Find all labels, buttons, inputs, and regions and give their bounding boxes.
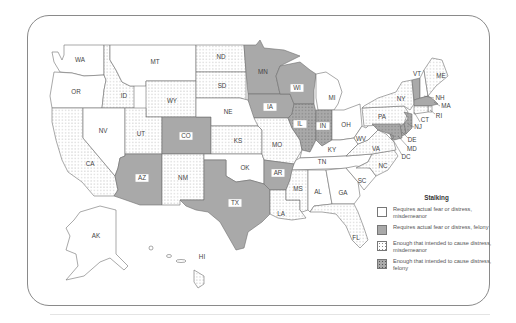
state-label-dc: DC bbox=[401, 153, 411, 160]
state-label-oh: OH bbox=[341, 121, 351, 128]
state-label-me: ME bbox=[436, 72, 445, 79]
state-label-mn: MN bbox=[258, 68, 268, 75]
state-label-ny: NY bbox=[397, 95, 407, 102]
state-label-il: IL bbox=[297, 120, 303, 127]
state-label-ia: IA bbox=[267, 103, 274, 110]
state-label-nd: ND bbox=[216, 53, 226, 60]
state-label-tn: TN bbox=[318, 158, 327, 165]
state-label-fl: FL bbox=[352, 234, 360, 241]
state-label-mt: MT bbox=[150, 58, 159, 65]
state-label-sd: SD bbox=[218, 82, 227, 89]
state-label-nv: NV bbox=[99, 127, 109, 134]
state-label-pa: PA bbox=[378, 113, 387, 120]
hi-island-maui bbox=[176, 260, 186, 263]
legend: Stalking Requires actual fear or distres… bbox=[377, 194, 492, 277]
legend-swatch-gray-dotted bbox=[377, 259, 387, 269]
state-HI[interactable] bbox=[194, 270, 204, 288]
state-label-sc: SC bbox=[358, 177, 367, 184]
state-label-nj: NJ bbox=[414, 123, 422, 130]
state-label-ct: CT bbox=[421, 116, 430, 123]
state-label-de: DE bbox=[408, 136, 417, 143]
legend-item-actual-fear-misdemeanor: Requires actual fear or distress, misdem… bbox=[377, 206, 492, 219]
hi-island-niihau bbox=[149, 246, 153, 250]
state-label-ar: AR bbox=[274, 169, 283, 176]
state-label-ne: NE bbox=[224, 108, 233, 115]
state-label-in: IN bbox=[320, 122, 327, 129]
state-label-mi: MI bbox=[329, 94, 336, 101]
state-label-mo: MO bbox=[272, 141, 282, 148]
legend-item-actual-fear-felony: Requires actual fear or distress, felony bbox=[377, 224, 492, 235]
state-label-tx: TX bbox=[231, 199, 240, 206]
state-label-nm: NM bbox=[178, 174, 188, 181]
state-label-az: AZ bbox=[138, 174, 146, 181]
state-label-wv: WV bbox=[356, 135, 367, 142]
state-FL[interactable] bbox=[310, 204, 368, 248]
state-label-al: AL bbox=[314, 188, 322, 195]
state-label-md: MD bbox=[407, 145, 417, 152]
hi-island-oahu bbox=[167, 255, 172, 258]
state-label-vt: VT bbox=[413, 70, 421, 77]
state-label-ut: UT bbox=[137, 130, 146, 137]
leader-line bbox=[398, 136, 408, 147]
state-label-or: OR bbox=[71, 88, 81, 95]
legend-label: Requires actual fear or distress, misdem… bbox=[393, 206, 492, 219]
state-label-wi: WI bbox=[293, 84, 301, 91]
state-label-nc: NC bbox=[378, 162, 388, 169]
state-label-va: VA bbox=[372, 145, 381, 152]
state-label-ri: RI bbox=[436, 112, 443, 119]
state-AK[interactable] bbox=[66, 206, 128, 280]
state-label-ok: OK bbox=[240, 164, 250, 171]
state-label-ma: MA bbox=[441, 102, 451, 109]
state-label-co: CO bbox=[181, 132, 191, 139]
legend-swatch-dotted bbox=[377, 241, 387, 251]
state-label-hi: HI bbox=[199, 253, 206, 260]
legend-title: Stalking bbox=[377, 194, 492, 201]
state-NY[interactable] bbox=[362, 80, 414, 110]
state-label-wy: WY bbox=[167, 97, 178, 104]
state-label-la: LA bbox=[277, 210, 286, 217]
state-label-ak: AK bbox=[92, 232, 101, 239]
legend-label: Enough that intended to cause distress, … bbox=[393, 258, 492, 271]
state-label-nh: NH bbox=[435, 94, 445, 101]
state-label-ca: CA bbox=[86, 160, 96, 167]
state-label-ga: GA bbox=[338, 189, 348, 196]
state-label-id: ID bbox=[121, 92, 128, 99]
legend-label: Requires actual fear or distress, felony bbox=[393, 224, 488, 231]
state-MI[interactable] bbox=[316, 72, 342, 110]
state-label-wa: WA bbox=[75, 56, 86, 63]
state-CT[interactable] bbox=[414, 106, 428, 114]
legend-swatch-gray bbox=[377, 225, 387, 235]
state-label-ky: KY bbox=[328, 146, 337, 153]
state-MT[interactable] bbox=[110, 45, 196, 86]
legend-item-intent-felony: Enough that intended to cause distress, … bbox=[377, 258, 492, 271]
legend-swatch-white bbox=[377, 207, 387, 217]
legend-label: Enough that intended to cause distress, … bbox=[393, 240, 492, 253]
state-label-ms: MS bbox=[293, 185, 302, 192]
legend-item-intent-misdemeanor: Enough that intended to cause distress, … bbox=[377, 240, 492, 253]
state-label-ks: KS bbox=[234, 137, 242, 144]
